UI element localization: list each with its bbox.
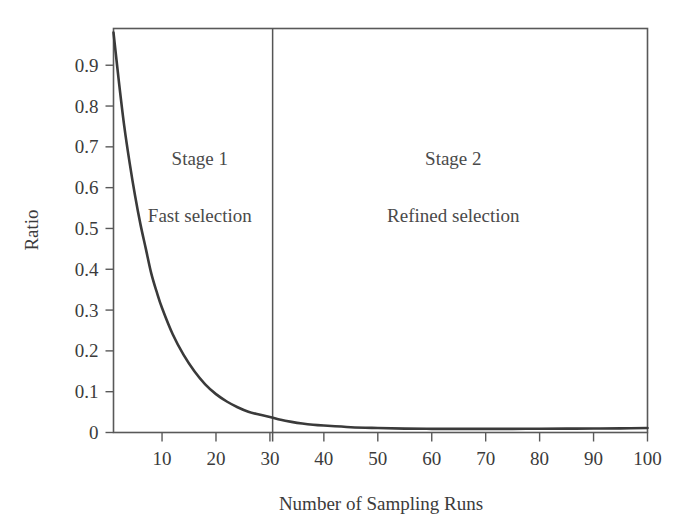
x-tick-label: 40	[314, 448, 333, 469]
y-tick-label: 0.6	[75, 177, 99, 198]
y-tick-label: 0.8	[75, 96, 99, 117]
y-tick-label: 0.5	[75, 218, 99, 239]
y-tick-label: 0.7	[75, 136, 99, 157]
y-tick-label: 0.4	[75, 259, 99, 280]
x-tick-label: 70	[476, 448, 495, 469]
y-tick-label: 0.3	[75, 300, 99, 321]
x-tick-label: 10	[153, 448, 172, 469]
y-tick-label: 0	[89, 422, 99, 443]
y-axis-title: Ratio	[21, 209, 42, 250]
x-tick-label: 100	[633, 448, 662, 469]
chart-annotation: Fast selection	[148, 205, 252, 226]
x-tick-label: 50	[368, 448, 387, 469]
chart-annotation: Refined selection	[387, 205, 520, 226]
y-tick-label: 0.1	[75, 381, 99, 402]
x-tick-label: 90	[584, 448, 603, 469]
x-tick-label: 20	[206, 448, 225, 469]
x-tick-label: 60	[422, 448, 441, 469]
chart-page: 00.10.20.30.40.50.60.70.80.9 10203040506…	[0, 0, 697, 524]
x-axis-title: Number of Sampling Runs	[279, 493, 483, 514]
x-tick-label: 30	[260, 448, 279, 469]
chart-background	[0, 0, 697, 524]
x-tick-label: 80	[530, 448, 549, 469]
chart-annotation: Stage 2	[425, 148, 481, 169]
y-tick-label: 0.2	[75, 340, 99, 361]
y-tick-label: 0.9	[75, 55, 99, 76]
chart-annotation: Stage 1	[172, 148, 228, 169]
ratio-decay-chart: 00.10.20.30.40.50.60.70.80.9 10203040506…	[0, 0, 697, 524]
